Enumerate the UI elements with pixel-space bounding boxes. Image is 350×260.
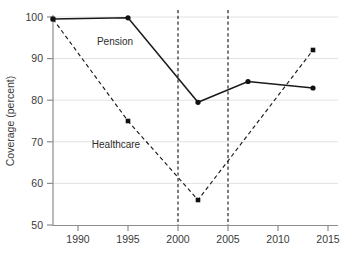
series-healthcare-line (53, 19, 313, 200)
y-tick-labels: 100 90 80 70 60 50 (25, 11, 43, 231)
data-point-marker (245, 79, 250, 84)
y-tick-label: 100 (25, 11, 43, 23)
series-pension-line (53, 18, 313, 103)
axis-lines (53, 15, 338, 226)
data-point-marker (50, 16, 55, 21)
data-point-marker (196, 198, 201, 203)
x-tick-marks (78, 226, 328, 232)
series-healthcare-markers (51, 17, 316, 203)
y-tick-marks (47, 17, 53, 225)
x-tick-label: 2005 (216, 233, 240, 245)
series-pension-markers (50, 15, 315, 105)
series-annotation-healthcare: Healthcare (92, 139, 141, 150)
data-point-marker (125, 15, 130, 20)
x-tick-labels: 1990 1995 2000 2005 2010 2015 (66, 233, 340, 245)
series-pension (50, 15, 315, 105)
y-tick-label: 90 (31, 52, 43, 64)
series-healthcare (51, 17, 316, 203)
data-point-marker (195, 100, 200, 105)
x-tick-label: 1990 (66, 233, 90, 245)
y-tick-label: 50 (31, 219, 43, 231)
line-chart: 100 90 80 70 60 50 1990 1995 2000 2005 2… (0, 0, 350, 260)
x-tick-label: 2000 (166, 233, 190, 245)
data-point-marker (311, 48, 316, 53)
x-tick-label: 2015 (316, 233, 340, 245)
y-tick-label: 70 (31, 136, 43, 148)
x-tick-label: 2010 (266, 233, 290, 245)
y-tick-label: 80 (31, 94, 43, 106)
data-point-marker (126, 119, 131, 124)
data-point-marker (310, 85, 315, 90)
y-axis-title: Coverage (percent) (4, 76, 16, 166)
y-tick-label: 60 (31, 177, 43, 189)
series-annotation-pension: Pension (97, 36, 133, 47)
x-tick-label: 1995 (116, 233, 140, 245)
chart-container: 100 90 80 70 60 50 1990 1995 2000 2005 2… (0, 0, 350, 260)
